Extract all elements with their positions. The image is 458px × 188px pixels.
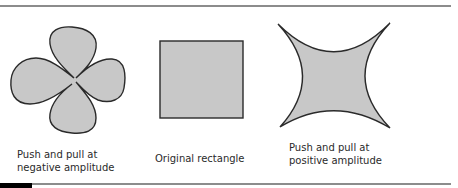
label-negative-amplitude: Push and pull at negative amplitude: [17, 148, 114, 174]
label-original-rectangle: Original rectangle: [155, 152, 245, 165]
corner-black-bar: [0, 183, 32, 188]
bottom-rule: [0, 183, 451, 185]
original-rectangle: [160, 41, 243, 118]
concave-star-shape: [278, 23, 390, 128]
label-positive-amplitude: Push and pull at positive amplitude: [289, 141, 382, 167]
flower-shape: [11, 27, 125, 133]
